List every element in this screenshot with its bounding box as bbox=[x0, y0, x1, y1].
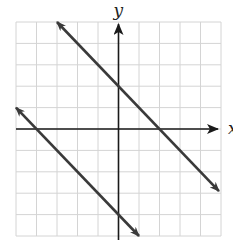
x-axis-label: x bbox=[228, 118, 233, 138]
y-axis-label: y bbox=[113, 0, 124, 20]
line-upper bbox=[57, 22, 219, 191]
coordinate-plane: x y bbox=[0, 0, 233, 252]
